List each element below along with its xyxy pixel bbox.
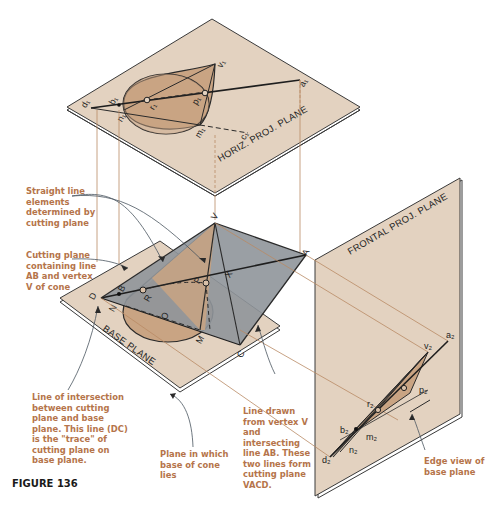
callout-line-of-intersection: Line of intersection between cutting pla… [32, 392, 132, 466]
figure-caption: FIGURE 136 [12, 478, 78, 489]
callout-cutting-plane: Cutting plane containing line AB and ver… [26, 250, 100, 292]
callout-base-plane: Plane in which base of cone lies [160, 449, 230, 481]
callout-edge-view: Edge view of base plane [424, 456, 486, 477]
horizontal-projection-plane [67, 19, 360, 196]
label-d2: d₂ [322, 455, 331, 465]
label-r2: r₂ [367, 399, 374, 409]
label-m2: m₂ [366, 432, 377, 442]
label-a2: a₂ [446, 330, 455, 340]
label-b2: b₂ [340, 425, 349, 435]
callout-straight-line-elements: Straight line elements determined by cut… [26, 186, 100, 228]
label-v2: v₂ [424, 341, 433, 351]
label-p2: p₂ [419, 385, 428, 395]
callout-line-from-vertex: Line drawn from vertex V and intersectin… [243, 406, 315, 490]
label-n2: n₂ [349, 445, 358, 455]
